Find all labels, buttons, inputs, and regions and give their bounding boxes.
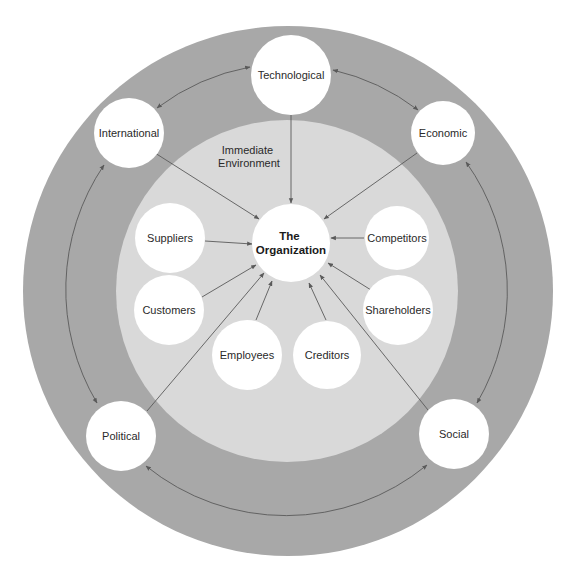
- node-economic[interactable]: Economic: [411, 101, 475, 165]
- node-political[interactable]: Political: [86, 401, 156, 471]
- node-competitors[interactable]: Competitors: [365, 206, 429, 270]
- environment-diagram: Immediate Environment Technological Econ…: [0, 0, 567, 567]
- node-social[interactable]: Social: [419, 399, 489, 469]
- node-customers-label: Customers: [142, 304, 196, 316]
- node-political-label: Political: [102, 430, 140, 442]
- node-the-organization[interactable]: The Organization: [252, 204, 330, 282]
- node-suppliers-label: Suppliers: [147, 232, 193, 244]
- node-technological[interactable]: Technological: [251, 35, 331, 115]
- node-technological-label: Technological: [258, 69, 325, 81]
- immediate-environment-label: Immediate Environment: [218, 144, 280, 169]
- node-creditors-label: Creditors: [305, 349, 350, 361]
- node-employees[interactable]: Employees: [212, 320, 282, 390]
- node-competitors-label: Competitors: [367, 232, 427, 244]
- node-shareholders[interactable]: Shareholders: [363, 275, 433, 345]
- node-international[interactable]: International: [94, 98, 164, 168]
- node-employees-label: Employees: [220, 349, 275, 361]
- node-shareholders-label: Shareholders: [365, 304, 431, 316]
- node-suppliers[interactable]: Suppliers: [135, 203, 205, 273]
- node-economic-label: Economic: [419, 127, 468, 139]
- node-international-label: International: [99, 127, 160, 139]
- node-customers[interactable]: Customers: [134, 275, 204, 345]
- node-creditors[interactable]: Creditors: [293, 321, 361, 389]
- node-social-label: Social: [439, 428, 469, 440]
